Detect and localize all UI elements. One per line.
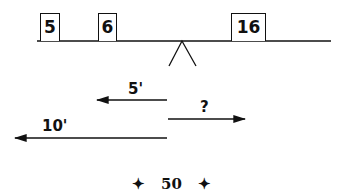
distance-label-unknown: ? <box>200 98 209 116</box>
ornament-left-icon: ✦ <box>132 175 145 193</box>
page-number-footer: ✦ 50 ✦ <box>0 175 343 193</box>
weight-box-6: 6 <box>98 13 117 41</box>
distance-label-10ft: 10' <box>42 117 67 135</box>
ornament-right-icon: ✦ <box>198 175 211 193</box>
seesaw-diagram: 5 6 16 5' ? 10' ✦ 50 ✦ <box>0 0 343 195</box>
fulcrum-icon <box>169 41 196 66</box>
weight-box-5: 5 <box>40 13 60 41</box>
page-number: 50 <box>161 175 182 193</box>
distance-label-5ft: 5' <box>128 80 143 98</box>
weight-box-16: 16 <box>231 13 266 41</box>
